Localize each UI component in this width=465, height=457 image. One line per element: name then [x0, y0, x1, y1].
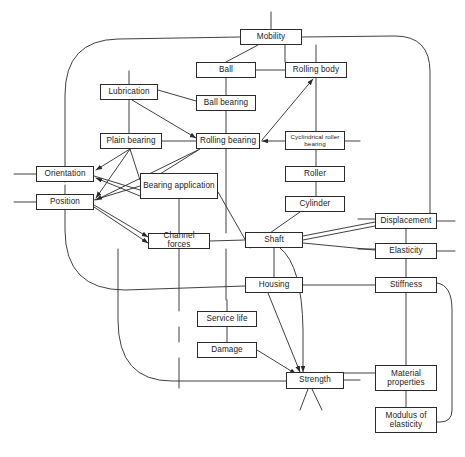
node-stiffness[interactable]: Stiffness — [375, 277, 437, 293]
node-damage[interactable]: Damage — [197, 342, 257, 358]
node-orientation[interactable]: Orientation — [36, 166, 94, 182]
node-cylindrical-roller-bearing[interactable]: Cyclindrical roller bearing — [285, 131, 345, 150]
node-ball[interactable]: Ball — [196, 62, 256, 78]
node-plain-bearing[interactable]: Plain bearing — [100, 133, 162, 149]
node-ball-bearing[interactable]: Ball bearing — [196, 95, 256, 111]
node-roller[interactable]: Roller — [285, 166, 345, 182]
node-service-life[interactable]: Service life — [197, 311, 257, 327]
node-rolling-bearing[interactable]: Rolling bearing — [196, 133, 260, 149]
node-strength[interactable]: Strength — [286, 372, 344, 389]
node-bearing-application[interactable]: Bearing application — [140, 173, 218, 199]
node-rolling-body[interactable]: Rolling body — [285, 62, 347, 78]
node-modulus-of-elasticity[interactable]: Modulus of elasticity — [375, 407, 437, 433]
node-lubrication[interactable]: Lubrication — [100, 84, 158, 100]
diagram-canvas: Mobility Ball Rolling body Lubrication B… — [0, 0, 465, 457]
node-displacement[interactable]: Displacement — [375, 213, 437, 229]
node-elasticity[interactable]: Elasticity — [375, 243, 437, 259]
node-shaft[interactable]: Shaft — [245, 232, 303, 248]
node-channel-forces[interactable]: Channel forces — [148, 233, 210, 249]
node-cylinder[interactable]: Cylinder — [285, 196, 345, 212]
node-material-properties[interactable]: Material properties — [375, 365, 437, 391]
node-housing[interactable]: Housing — [245, 277, 303, 293]
node-position[interactable]: Position — [36, 194, 94, 210]
node-mobility[interactable]: Mobility — [240, 29, 302, 45]
